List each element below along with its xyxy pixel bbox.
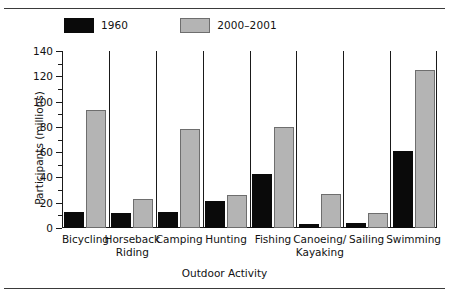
x-axis-category-label: Hunting <box>205 233 247 246</box>
y-tick-major <box>56 203 62 204</box>
x-axis-category-label: Fishing <box>255 233 292 246</box>
y-tick-label: 20 <box>40 197 53 209</box>
bar <box>274 127 294 228</box>
bar <box>158 212 178 228</box>
bar <box>368 213 388 228</box>
y-tick-label: 100 <box>33 96 53 108</box>
legend-swatch-2000-2001 <box>180 18 210 33</box>
x-axis-category-label: Swimming <box>386 233 441 246</box>
y-tick-major <box>56 76 62 77</box>
y-tick-label: 60 <box>40 146 53 158</box>
y-tick-major <box>56 102 62 103</box>
legend-label-2000-2001: 2000–2001 <box>217 19 277 31</box>
y-tick-major <box>56 228 62 229</box>
y-tick-minor <box>58 190 62 191</box>
x-axis-category-label: Canoeing/ Kayaking <box>293 233 346 259</box>
x-axis-title: Outdoor Activity <box>0 267 449 279</box>
legend-swatch-1960 <box>64 18 94 33</box>
bar <box>205 201 225 228</box>
y-tick-label: 40 <box>40 171 53 183</box>
y-tick-major <box>56 177 62 178</box>
bar <box>415 70 435 228</box>
y-tick-minor <box>58 165 62 166</box>
y-tick-minor <box>58 89 62 90</box>
category-separator <box>390 51 391 228</box>
bar <box>321 194 341 228</box>
y-axis-line <box>62 51 63 228</box>
y-tick-minor <box>58 114 62 115</box>
category-separator <box>296 51 297 228</box>
x-axis-category-label: Bicycling <box>62 233 109 246</box>
category-separator <box>343 51 344 228</box>
y-tick-major <box>56 152 62 153</box>
bar <box>252 174 272 228</box>
category-separator <box>203 51 204 228</box>
bar <box>64 212 84 228</box>
plot-area: 020406080100120140 <box>62 51 437 228</box>
y-tick-minor <box>58 140 62 141</box>
bar <box>299 224 319 228</box>
bar <box>346 223 366 228</box>
legend-item-1960: 1960 <box>64 18 128 33</box>
y-tick-minor <box>58 215 62 216</box>
y-tick-label: 80 <box>40 121 53 133</box>
bar <box>111 213 131 228</box>
bar <box>86 110 106 228</box>
bar-chart-figure: 1960 2000–2001 Participants (millions) 0… <box>0 0 449 297</box>
bar <box>393 151 413 228</box>
bar <box>227 195 247 228</box>
bar <box>180 129 200 228</box>
category-separator <box>156 51 157 228</box>
plot-right-frame <box>436 51 437 228</box>
category-separator <box>250 51 251 228</box>
legend-item-2000-2001: 2000–2001 <box>180 18 277 33</box>
x-axis-category-label: Sailing <box>349 233 384 246</box>
y-tick-minor <box>58 64 62 65</box>
x-axis-category-label: Camping <box>156 233 203 246</box>
x-axis-category-label: Horseback Riding <box>105 233 161 259</box>
category-separator <box>109 51 110 228</box>
y-tick-label: 120 <box>33 70 53 82</box>
chart-legend: 1960 2000–2001 <box>64 17 277 33</box>
y-tick-major <box>56 127 62 128</box>
bar <box>133 199 153 228</box>
y-tick-label: 0 <box>46 222 53 234</box>
y-tick-major <box>56 51 62 52</box>
legend-label-1960: 1960 <box>101 19 128 31</box>
y-tick-label: 140 <box>33 45 53 57</box>
